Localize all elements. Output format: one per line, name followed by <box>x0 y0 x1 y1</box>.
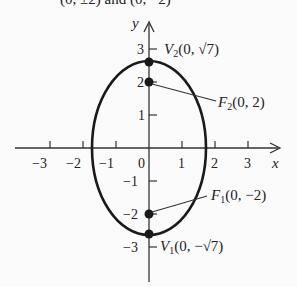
f1-leader-line <box>152 196 207 212</box>
v1-label: V1(0, −√7) <box>160 238 223 256</box>
y-tick-label: −1 <box>123 174 138 189</box>
x-tick-label: 2 <box>211 156 218 171</box>
y-tick-label: 1 <box>138 108 145 123</box>
y-tick-label: 2 <box>137 75 144 90</box>
x-tick-label: −1 <box>99 156 114 171</box>
vertex-v1-dot <box>145 230 154 239</box>
ellipse-diagram: (0, ±2) and (0, −2) −3 −2 −1 0 1 2 3 x 3… <box>0 0 297 287</box>
y-axis-label: y <box>130 15 139 31</box>
x-axis-label: x <box>271 155 279 171</box>
vertex-v2-dot <box>145 58 154 67</box>
x-tick-label: −3 <box>32 156 47 171</box>
v2-label: V2(0, √7) <box>164 41 219 59</box>
f2-label: F2(0, 2) <box>217 94 265 112</box>
f1-label: F1(0, −2) <box>210 187 266 205</box>
title-fragment: (0, ±2) and (0, −2) <box>60 0 171 8</box>
x-tick-label: 3 <box>244 156 251 171</box>
focus-f1-dot <box>145 210 154 219</box>
x-tick-label: 1 <box>178 156 185 171</box>
x-tick-label: 0 <box>138 156 145 171</box>
focus-f2-dot <box>145 78 154 87</box>
x-tick-label: −2 <box>66 156 81 171</box>
f2-leader-line <box>152 84 216 101</box>
y-tick-label: −2 <box>123 207 138 222</box>
y-tick-label: 3 <box>137 42 144 57</box>
y-tick-label: −3 <box>123 240 138 255</box>
